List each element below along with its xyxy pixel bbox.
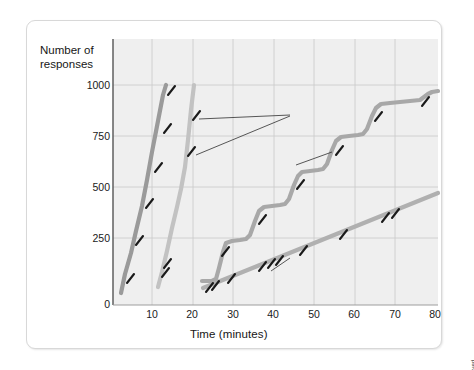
- source-credit: Adapted from “Teaching machines” by B. F…: [458, 12, 472, 358]
- reinforcement-schedules-chart: Number of responses 1000 750 500 250 0 1…: [0, 0, 474, 370]
- plot-svg: [0, 0, 474, 370]
- source-credit-text: Adapted from “Teaching machines” by B. F…: [469, 358, 474, 370]
